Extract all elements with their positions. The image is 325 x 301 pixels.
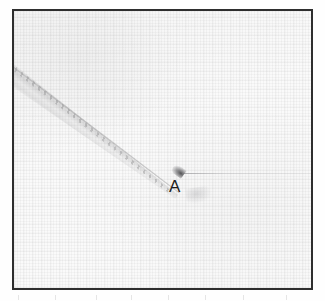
bleed-mark: [205, 295, 206, 300]
figure-root: A: [0, 0, 325, 301]
bleed-mark: [168, 295, 169, 300]
bleed-mark: [131, 295, 132, 300]
object-shaft: [12, 57, 183, 206]
bleed-mark: [286, 295, 287, 300]
bleed-mark: [96, 295, 97, 300]
object-shaft-edge: [12, 60, 182, 194]
object-serrations: [12, 59, 178, 195]
serrated-diagonal-object: [14, 11, 311, 288]
bleed-mark: [243, 295, 244, 300]
faint-smudge: [185, 185, 213, 204]
point-label-a: A: [169, 178, 180, 195]
photo-frame: A: [12, 9, 313, 290]
bleed-mark: [18, 295, 19, 300]
bleed-through-marks: [0, 291, 325, 301]
faint-horizontal-line: [182, 173, 313, 174]
bleed-mark: [55, 295, 56, 300]
